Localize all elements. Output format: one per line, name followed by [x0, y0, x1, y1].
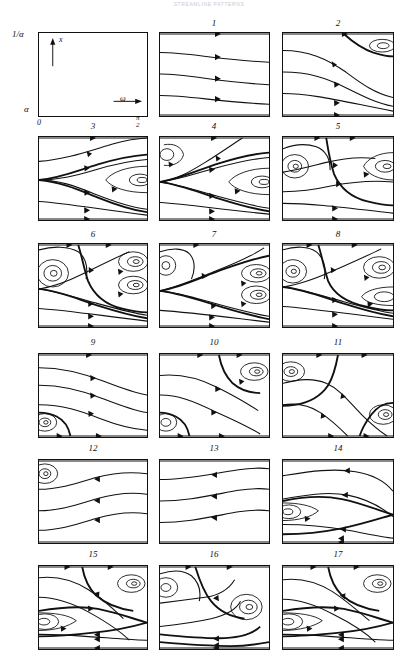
- panel-label-6: 6: [68, 229, 118, 239]
- panel-9: [38, 353, 148, 438]
- streamlines-6: [39, 244, 147, 327]
- axis-tick-max-denominator: 2: [136, 122, 140, 129]
- panel-6: [38, 243, 148, 328]
- panel-10: [159, 353, 270, 438]
- panel-label-4: 4: [189, 121, 239, 131]
- panel-label-12: 12: [68, 443, 118, 453]
- panel-1: [159, 32, 270, 117]
- panel-7: [159, 243, 270, 328]
- streamlines-16: [160, 566, 269, 649]
- streamlines-3: [39, 137, 147, 220]
- streamlines-7: [160, 244, 269, 327]
- panel-label-7: 7: [189, 229, 239, 239]
- panel-14: [282, 459, 394, 544]
- streamlines-17: [283, 566, 393, 649]
- panel-3: [38, 136, 148, 221]
- panel-label-11: 11: [313, 337, 363, 347]
- axis-label-y-bottom: α: [24, 104, 29, 114]
- panel-label-5: 5: [313, 121, 363, 131]
- panel-13: [159, 459, 270, 544]
- streamlines-4: [160, 137, 269, 220]
- panel-label-17: 17: [313, 549, 363, 559]
- panel-label-1: 1: [189, 18, 239, 28]
- streamlines-11: [283, 354, 393, 437]
- axis-symbol-x: x: [59, 35, 63, 44]
- panel-12: [38, 459, 148, 544]
- panel-label-14: 14: [313, 443, 363, 453]
- panel-label-3: 3: [68, 121, 118, 131]
- panel-11: [282, 353, 394, 438]
- panel-axis-key: [38, 32, 148, 117]
- streamlines-10: [160, 354, 269, 437]
- axis-symbol-omega: ω: [120, 94, 126, 103]
- panel-label-9: 9: [68, 337, 118, 347]
- figure-root: STREAMLINE PATTERNS 1/α α x ω 0 π 2: [0, 0, 418, 671]
- panel-label-10: 10: [189, 337, 239, 347]
- panel-label-13: 13: [189, 443, 239, 453]
- panel-17: [282, 565, 394, 650]
- streamlines-1: [160, 33, 269, 116]
- panel-4: [159, 136, 270, 221]
- streamlines-12: [39, 460, 147, 543]
- axis-tick-max: π 2: [136, 115, 140, 129]
- panel-2: [282, 32, 394, 117]
- panel-15: [38, 565, 148, 650]
- axis-tick-origin: 0: [37, 118, 41, 127]
- streamlines-14: [283, 460, 393, 543]
- running-header: STREAMLINE PATTERNS: [0, 1, 418, 7]
- streamlines-5: [283, 137, 393, 220]
- axis-key-graphic: [39, 33, 147, 116]
- panel-label-2: 2: [313, 18, 363, 28]
- streamlines-13: [160, 460, 269, 543]
- panel-label-8: 8: [313, 229, 363, 239]
- streamlines-8: [283, 244, 393, 327]
- panel-8: [282, 243, 394, 328]
- panel-16: [159, 565, 270, 650]
- axis-label-y-top: 1/α: [12, 29, 24, 39]
- streamlines-9: [39, 354, 147, 437]
- panel-label-16: 16: [189, 549, 239, 559]
- streamlines-15: [39, 566, 147, 649]
- streamlines-2: [283, 33, 393, 116]
- panel-5: [282, 136, 394, 221]
- panel-label-15: 15: [68, 549, 118, 559]
